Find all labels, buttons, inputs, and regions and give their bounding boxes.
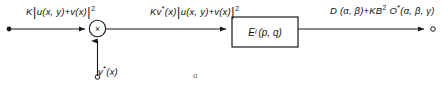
input-exponent: 2 <box>91 5 95 12</box>
label-bottom-input-expression: v*(x) <box>98 66 118 77</box>
vstar-arg: (x) <box>106 66 118 77</box>
label-middle-expression: Kv*(x)|u(x, y)+v(x)|2 <box>150 5 239 19</box>
figure-block-diagram: × Ei(p, q) K|u(x, y)+v(x)|2 Kv*(x)|u(x, … <box>0 0 441 94</box>
figure-caption: a <box>193 70 198 80</box>
input-body: u(x, y)+v(x) <box>37 6 87 17</box>
output-term3-symbol: O <box>386 5 397 16</box>
multiply-icon: × <box>89 20 106 37</box>
mid-body: u(x, y)+v(x) <box>181 6 231 17</box>
mid-exponent: 2 <box>235 5 239 12</box>
label-output-expression: D (α, β)+KB2O*(α, β, γ) <box>330 5 435 16</box>
input-prefix: K <box>26 6 33 17</box>
output-term3-args: (α, β, γ) <box>400 5 434 16</box>
mid-prefix: Kv <box>150 6 162 17</box>
operator-args: (p, q) <box>256 27 281 38</box>
terminal-output-right <box>431 27 436 32</box>
output-term1: D (α, β) <box>330 5 364 16</box>
output-term2-prefix: KB <box>369 5 382 16</box>
operator-symbol: E <box>248 27 255 38</box>
label-input-expression: K|u(x, y)+v(x)|2 <box>26 5 95 19</box>
operator-block-label: Ei(p, q) <box>232 17 298 47</box>
mid-arg: (x) <box>165 6 177 17</box>
